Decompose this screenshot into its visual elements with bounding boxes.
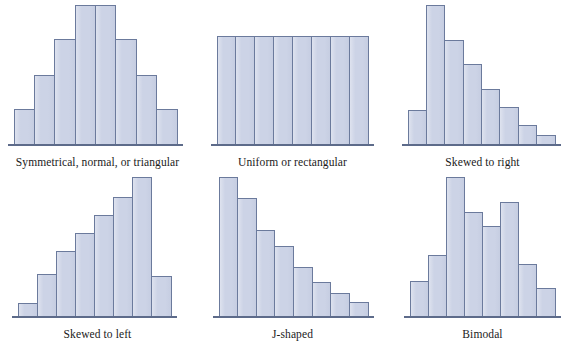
histogram-bar <box>75 5 96 145</box>
histogram-bar <box>463 64 482 145</box>
histogram-bar <box>217 36 237 145</box>
histogram-bar <box>312 282 332 317</box>
histogram-bar <box>349 36 369 145</box>
histogram-bar <box>115 39 136 145</box>
plot-area-bimodal <box>390 177 575 317</box>
bar-group-skewed-left <box>18 177 172 317</box>
histogram-bar <box>113 197 133 317</box>
panel-skewed-left: Skewed to left <box>0 172 195 344</box>
histogram-bar <box>482 226 501 317</box>
bar-group-skewed-right <box>408 5 556 145</box>
caption-j-shaped: J-shaped <box>195 328 390 340</box>
baseline-axis-uniform <box>211 144 374 146</box>
histogram-bar <box>274 246 294 317</box>
histogram-bar <box>444 40 463 145</box>
histogram-bar <box>499 107 518 145</box>
histogram-bar <box>481 89 500 145</box>
plot-area-symmetrical <box>0 5 195 145</box>
panel-bimodal: Bimodal <box>390 172 575 344</box>
baseline-axis-j-shaped <box>213 316 374 318</box>
histogram-bar <box>518 125 537 145</box>
plot-area-j-shaped <box>195 177 390 317</box>
caption-skewed-left: Skewed to left <box>0 328 195 340</box>
caption-skewed-right: Skewed to right <box>390 156 575 168</box>
bar-group-bimodal <box>410 177 556 317</box>
histogram-bar <box>34 75 55 145</box>
histogram-bar <box>410 281 429 317</box>
plot-area-uniform <box>195 5 390 145</box>
caption-bimodal: Bimodal <box>390 328 575 340</box>
histogram-bar <box>254 36 274 145</box>
caption-uniform: Uniform or rectangular <box>195 156 390 168</box>
histogram-bar <box>518 264 537 317</box>
histogram-bar <box>464 212 483 317</box>
histogram-bar <box>256 230 276 317</box>
histogram-bar <box>446 177 465 317</box>
histogram-bar <box>75 233 95 317</box>
histogram-bar <box>330 293 350 317</box>
histogram-bar <box>311 36 331 145</box>
histogram-bar <box>426 5 445 145</box>
histogram-bar <box>54 39 75 145</box>
baseline-axis-bimodal <box>404 316 561 318</box>
histogram-bar <box>292 36 312 145</box>
caption-symmetrical: Symmetrical, normal, or triangular <box>0 156 195 168</box>
plot-area-skewed-left <box>0 177 195 317</box>
histogram-bar <box>95 5 116 145</box>
panel-uniform: Uniform or rectangular <box>195 0 390 172</box>
histogram-bar <box>536 288 555 317</box>
baseline-axis-skewed-right <box>402 144 561 146</box>
baseline-axis-symmetrical <box>8 144 183 146</box>
bar-group-symmetrical <box>14 5 178 145</box>
histogram-shapes-figure: Symmetrical, normal, or triangular Unifo… <box>0 0 575 344</box>
histogram-bar <box>408 110 427 145</box>
histogram-bar <box>219 177 239 317</box>
plot-area-skewed-right <box>390 5 575 145</box>
histogram-bar <box>37 274 57 317</box>
histogram-bar <box>14 109 35 145</box>
histogram-bar <box>500 202 519 317</box>
histogram-bar <box>235 36 255 145</box>
panel-symmetrical: Symmetrical, normal, or triangular <box>0 0 195 172</box>
histogram-bar <box>94 215 114 317</box>
histogram-bar <box>428 255 447 317</box>
histogram-bar <box>237 198 257 317</box>
histogram-bar <box>330 36 350 145</box>
histogram-bar <box>293 267 313 317</box>
histogram-bar <box>132 177 152 317</box>
histogram-bar <box>18 303 38 317</box>
histogram-bar <box>349 302 369 317</box>
histogram-bar <box>151 276 171 317</box>
histogram-bar <box>156 109 177 145</box>
baseline-axis-skewed-left <box>12 316 177 318</box>
histogram-bar <box>136 75 157 145</box>
panel-skewed-right: Skewed to right <box>390 0 575 172</box>
histogram-bar <box>56 251 76 317</box>
panel-j-shaped: J-shaped <box>195 172 390 344</box>
histogram-bar <box>273 36 293 145</box>
bar-group-j-shaped <box>219 177 369 317</box>
bar-group-uniform <box>217 5 369 145</box>
